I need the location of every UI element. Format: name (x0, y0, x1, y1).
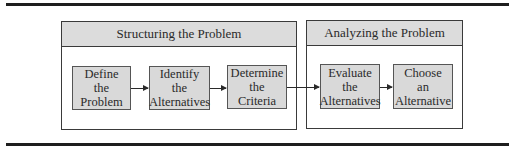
step-line: an (417, 80, 429, 94)
step-line: Criteria (238, 94, 276, 108)
top-rule (6, 3, 509, 6)
step-line: Choose (404, 66, 442, 80)
step-line: the (172, 81, 187, 95)
panel-analyzing-title: Analyzing the Problem (307, 21, 462, 46)
step-line: Alternatives (149, 95, 210, 109)
step-line: the (342, 80, 357, 94)
arrow-right-icon (380, 87, 392, 88)
step-line: the (249, 80, 264, 94)
arrow-right-icon (287, 87, 319, 88)
step-line: the (94, 81, 109, 95)
arrow-right-icon (210, 88, 226, 89)
step-determine-criteria: Determine the Criteria (227, 65, 287, 109)
step-choose-alternative: Choose an Alternative (393, 64, 453, 109)
step-identify-alternatives: Identify the Alternatives (149, 66, 210, 110)
step-line: Alternatives (319, 94, 380, 108)
step-line: Define (84, 67, 118, 81)
step-line: Evaluate (328, 66, 372, 80)
step-line: Determine (231, 66, 284, 80)
panel-structuring-title: Structuring the Problem (62, 22, 296, 47)
step-define-problem: Define the Problem (72, 66, 131, 110)
step-evaluate-alternatives: Evaluate the Alternatives (320, 64, 380, 109)
step-line: Identify (160, 67, 200, 81)
step-line: Alternative (395, 94, 451, 108)
bottom-rule (6, 143, 509, 146)
step-line: Problem (80, 95, 122, 109)
arrow-right-icon (131, 88, 148, 89)
